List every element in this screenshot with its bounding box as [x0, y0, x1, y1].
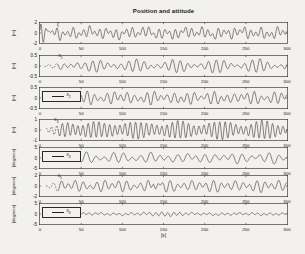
x-tick-label: 250	[236, 111, 256, 116]
x-tick-label: 200	[195, 46, 215, 51]
y-axis-label: [degrees]	[11, 177, 16, 195]
x-tick-label: 100	[112, 227, 132, 232]
y-tick-label: 1	[20, 117, 37, 122]
legend-label: x2	[66, 93, 70, 99]
y-tick-label: 5	[20, 201, 37, 206]
y-tick-label: 0	[20, 31, 37, 36]
x-tick-label: 150	[154, 227, 174, 232]
x-tick-label: 50	[71, 227, 91, 232]
y-tick-label: 0.5	[20, 53, 37, 58]
x-tick-label: 300	[277, 227, 297, 232]
y-axis-label: [degrees]	[11, 205, 16, 223]
y-tick-label: 2	[20, 20, 37, 25]
x-axis-label: [s]	[39, 233, 288, 238]
x-tick-label: 0	[30, 227, 50, 232]
y-tick-label: 0	[20, 184, 37, 189]
x-tick-label: 300	[277, 46, 297, 51]
y-tick-label: 0	[20, 156, 37, 161]
x-tick-label: 300	[277, 111, 297, 116]
x-tick-label: 50	[71, 46, 91, 51]
y-tick-label: 0.5	[20, 85, 37, 90]
x-tick-label: 200	[195, 111, 215, 116]
x-tick-label: 100	[112, 111, 132, 116]
legend-line-sample-icon	[52, 212, 64, 213]
x-tick-label: 150	[154, 111, 174, 116]
legend-line-sample-icon	[52, 156, 64, 157]
plot-box	[39, 55, 288, 77]
x-tick-label: 200	[195, 227, 215, 232]
y-tick-label: 0	[20, 212, 37, 217]
subplot-3: [m] 0.5 0 -0.5 x2 050100150200250300	[0, 87, 305, 119]
x-tick-label: 50	[71, 79, 91, 84]
x-tick-labels: 050100150200250300	[39, 46, 288, 52]
x-tick-labels: 050100150200250300	[39, 111, 288, 117]
x-tick-label: 150	[154, 79, 174, 84]
x-tick-labels: 050100150200250300	[39, 79, 288, 85]
y-tick-label: 0	[20, 96, 37, 101]
legend-box: x6	[42, 207, 81, 218]
legend-line-sample-icon	[52, 96, 64, 97]
y-axis-label: [m]	[11, 95, 16, 101]
x-tick-label: 100	[112, 79, 132, 84]
series-annotation: x3	[54, 118, 58, 124]
x-tick-label: 0	[30, 46, 50, 51]
subplot-2: [m] 0.5 0 -0.5 x1 050100150200250300	[0, 55, 305, 87]
y-axis-label: [degrees]	[11, 149, 16, 167]
figure-canvas: Position and attitude [m] 2 0 -2 ξ 05010…	[0, 0, 305, 254]
x-tick-label: 0	[30, 79, 50, 84]
x-tick-label: 250	[236, 46, 256, 51]
y-tick-label: 0	[20, 64, 37, 69]
y-axis-label: [m]	[11, 30, 16, 36]
x-tick-label: 50	[71, 111, 91, 116]
series-annotation: x1	[58, 54, 62, 60]
x-tick-label: 250	[236, 227, 256, 232]
series-annotation: x5	[58, 174, 62, 180]
legend-box: x2	[42, 91, 81, 102]
y-tick-label: 2	[20, 173, 37, 178]
series-annotation: ξ	[57, 23, 59, 27]
plot-box	[39, 22, 288, 44]
x-tick-label: 0	[30, 111, 50, 116]
y-axis-label: [m]	[11, 127, 16, 133]
plot-box	[39, 175, 288, 197]
legend-box: x4	[42, 151, 81, 162]
plot-box	[39, 119, 288, 141]
legend-label: x6	[66, 209, 70, 215]
legend-label: x4	[66, 153, 70, 159]
subplot-7: [degrees] 5 0 -5 x6 050100150200250300	[0, 203, 305, 235]
y-tick-label: 0	[20, 128, 37, 133]
x-tick-label: 250	[236, 79, 256, 84]
y-axis-label: [m]	[11, 63, 16, 69]
x-tick-label: 300	[277, 79, 297, 84]
subplot-1: [m] 2 0 -2 ξ 050100150200250300	[0, 22, 305, 54]
x-tick-label: 100	[112, 46, 132, 51]
x-tick-labels: 050100150200250300	[39, 227, 288, 233]
y-tick-label: 5	[20, 145, 37, 150]
x-tick-label: 150	[154, 46, 174, 51]
chart-title: Position and attitude	[39, 8, 288, 14]
x-tick-label: 200	[195, 79, 215, 84]
